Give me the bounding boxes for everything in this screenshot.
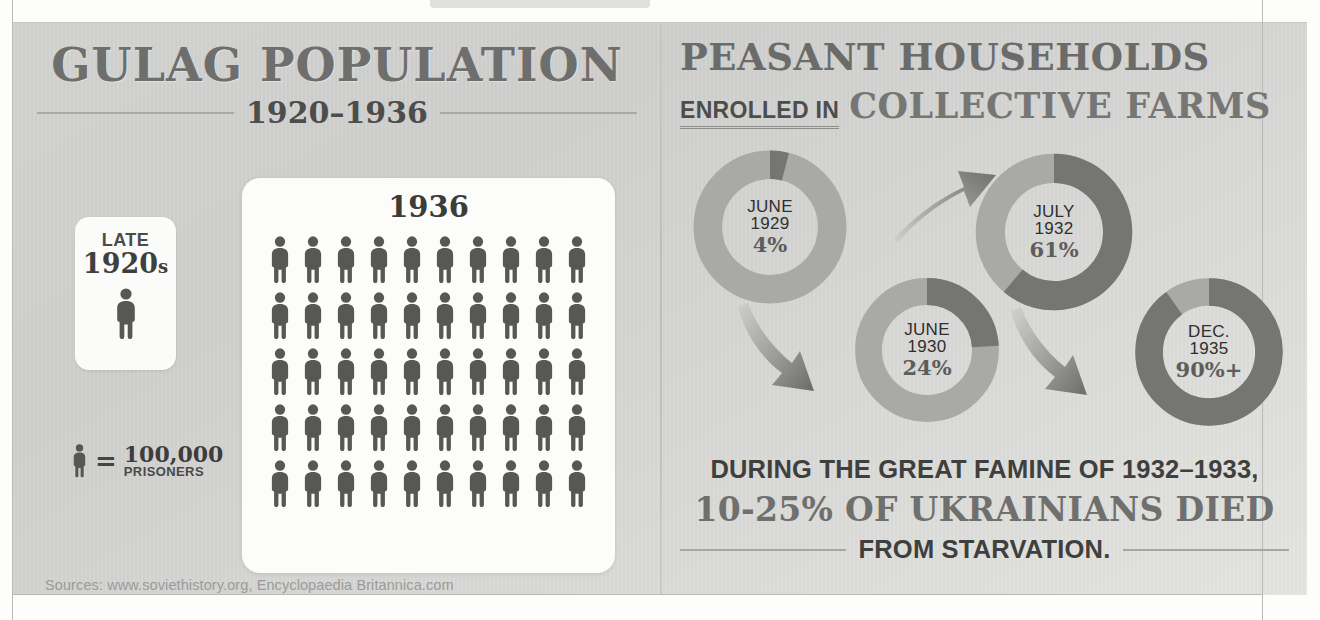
person-icon xyxy=(532,292,556,340)
scan-artifact xyxy=(430,0,650,8)
arrow-down-right-icon xyxy=(1007,305,1117,405)
legend-unit: PRISONERS xyxy=(124,465,224,478)
person-icon xyxy=(268,348,292,396)
person-icon xyxy=(400,404,424,452)
pictogram-grid xyxy=(264,236,593,508)
famine-line-1: DURING THE GREAT FAMINE OF 1932–1933, xyxy=(662,455,1307,484)
person-icon xyxy=(466,292,490,340)
person-icon xyxy=(466,348,490,396)
person-icon xyxy=(499,236,523,284)
person-icon xyxy=(433,460,457,508)
collective-farms-panel: PEASANT HOUSEHOLDS ENROLLED IN COLLECTIV… xyxy=(662,23,1307,595)
person-icon xyxy=(433,348,457,396)
person-icon xyxy=(334,292,358,340)
person-icon xyxy=(301,292,325,340)
person-icon xyxy=(301,348,325,396)
person-icon xyxy=(433,292,457,340)
famine-line-2: 10-25% OF UKRAINIANS DIED xyxy=(662,490,1307,529)
person-icon xyxy=(334,236,358,284)
person-icon xyxy=(334,348,358,396)
pictogram-legend: = 100,000 PRISONERS xyxy=(71,443,223,479)
legend-value: 100,000 xyxy=(124,443,224,465)
person-icon xyxy=(334,460,358,508)
decade-label: 1920s xyxy=(83,250,168,278)
person-icon xyxy=(532,460,556,508)
person-icon xyxy=(433,236,457,284)
person-icon xyxy=(268,404,292,452)
person-icon xyxy=(565,460,589,508)
peasant-title: PEASANT HOUSEHOLDS xyxy=(680,35,1210,79)
person-icon xyxy=(367,348,391,396)
person-icon xyxy=(532,348,556,396)
person-icon xyxy=(367,404,391,452)
year-1936-card: 1936 xyxy=(242,178,615,573)
person-icon xyxy=(268,236,292,284)
famine-line-3-row: FROM STARVATION. xyxy=(662,535,1307,564)
person-icon xyxy=(400,236,424,284)
person-icon xyxy=(433,404,457,452)
person-icon xyxy=(400,348,424,396)
person-icon xyxy=(565,404,589,452)
famine-rule-left xyxy=(680,549,846,551)
person-icon xyxy=(565,348,589,396)
person-icon xyxy=(466,404,490,452)
donut-chart-dec-1935: DEC. 1935 90%+ xyxy=(1128,271,1290,433)
person-icon xyxy=(565,292,589,340)
person-icon xyxy=(71,444,88,478)
collective-farms-label: COLLECTIVE FARMS xyxy=(849,85,1271,126)
person-icon xyxy=(532,236,556,284)
person-icon xyxy=(499,348,523,396)
legend-text: 100,000 PRISONERS xyxy=(124,443,224,479)
person-icon xyxy=(367,236,391,284)
arrow-down-right-icon xyxy=(734,301,844,401)
gulag-subtitle-row: 1920–1936 xyxy=(37,95,637,130)
person-icon xyxy=(301,460,325,508)
person-icon xyxy=(301,404,325,452)
gulag-population-panel: GULAG POPULATION 1920–1936 LATE 1920s xyxy=(13,23,660,595)
person-icon xyxy=(532,404,556,452)
person-icon xyxy=(301,236,325,284)
person-icon xyxy=(466,236,490,284)
subtitle-rule-right xyxy=(440,112,637,114)
person-icon xyxy=(268,460,292,508)
famine-rule-right xyxy=(1123,549,1289,551)
famine-line-3: FROM STARVATION. xyxy=(858,535,1110,564)
person-icon xyxy=(400,460,424,508)
infographic-root: GULAG POPULATION 1920–1936 LATE 1920s xyxy=(0,0,1320,620)
person-icon xyxy=(499,460,523,508)
decade-suffix: s xyxy=(158,256,168,277)
person-icon xyxy=(499,292,523,340)
late-1920s-card: LATE 1920s xyxy=(75,217,176,370)
decade-number: 1920 xyxy=(83,248,158,279)
equals-sign: = xyxy=(95,448,117,474)
person-icon xyxy=(367,460,391,508)
gulag-subtitle-years: 1920–1936 xyxy=(246,95,428,130)
arrow-up-right-icon xyxy=(892,163,1002,248)
enrolled-title-row: ENROLLED IN COLLECTIVE FARMS xyxy=(680,85,1271,129)
person-icon xyxy=(400,292,424,340)
gulag-title: GULAG POPULATION xyxy=(37,38,637,92)
enrolled-in-label: ENROLLED IN xyxy=(680,97,839,129)
person-icon xyxy=(466,460,490,508)
famine-statement: DURING THE GREAT FAMINE OF 1932–1933, 10… xyxy=(662,455,1307,564)
person-icon xyxy=(334,404,358,452)
year-1936-label: 1936 xyxy=(242,190,615,224)
person-icon xyxy=(268,292,292,340)
donut-chart-june-1929: JUNE 1929 4% xyxy=(686,143,854,311)
person-icon xyxy=(367,292,391,340)
person-icon xyxy=(565,236,589,284)
sources-text: Sources: www.soviethistory.org, Encyclop… xyxy=(45,577,454,593)
late-label: LATE xyxy=(102,231,150,249)
person-icon xyxy=(499,404,523,452)
person-icon xyxy=(113,288,139,340)
subtitle-rule-left xyxy=(37,112,234,114)
